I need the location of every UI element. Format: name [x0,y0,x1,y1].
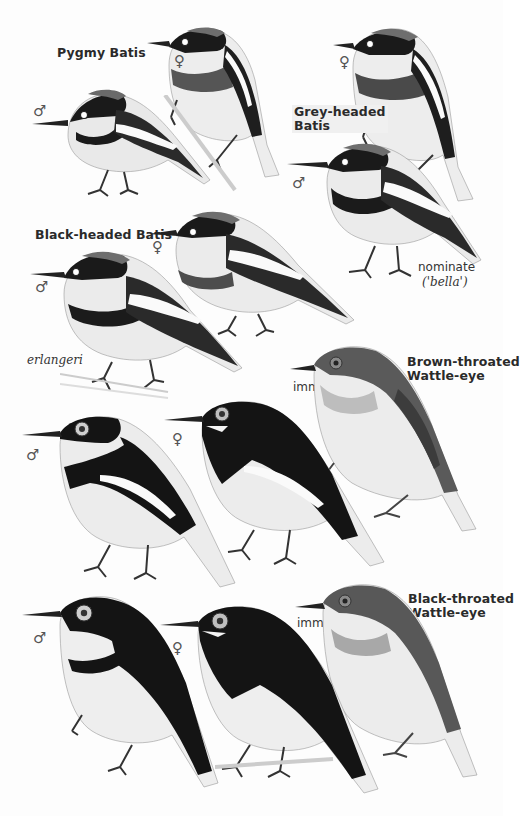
subspecies-label-erlangeri: erlangeri [27,353,83,368]
female-symbol: ♀ [172,432,183,447]
subspecies-note-nominate: nominate ('bella') [418,260,475,290]
female-symbol: ♀ [174,54,185,69]
female-symbol: ♀ [339,55,350,70]
perch-stick [60,370,170,400]
note-line-bella: ('bella') [418,275,475,290]
male-symbol: ♂ [292,176,305,191]
species-label-line: Batis [294,119,386,133]
species-label-grey-headed-batis: Grey-headed Batis [292,105,388,133]
species-label-pygmy-batis: Pygmy Batis [57,46,146,60]
note-line-nominate: nominate [418,260,475,275]
species-label-line: Grey-headed [294,105,386,119]
female-symbol: ♀ [172,641,183,656]
perch-stick [160,95,240,195]
male-symbol: ♂ [26,448,39,463]
brown-throated-wattle-eye-female-illustration [162,400,387,570]
male-symbol: ♂ [35,280,48,295]
male-symbol: ♂ [33,631,46,646]
perch-stick [215,755,335,785]
male-symbol: ♂ [33,104,46,119]
